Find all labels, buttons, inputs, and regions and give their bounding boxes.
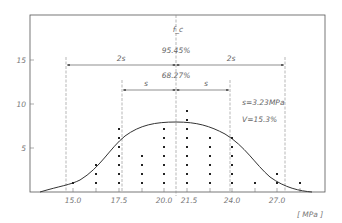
data-dot: [276, 182, 278, 184]
y-axis: 5 10 15: [16, 56, 34, 153]
data-dot: [231, 137, 233, 139]
y-axis-label: f_c: [173, 25, 184, 34]
data-dot: [186, 137, 188, 139]
x-tick-17-5: 17.5: [111, 196, 128, 205]
data-dot: [118, 164, 120, 166]
data-dot: [231, 155, 233, 157]
data-dot: [299, 182, 301, 184]
data-dot: [118, 146, 120, 148]
data-dot: [186, 146, 188, 148]
data-dot: [209, 155, 211, 157]
x-tick-15: 15.0: [65, 196, 82, 205]
data-dot: [72, 182, 74, 184]
data-dot: [163, 182, 165, 184]
y-tick-15: 15: [16, 56, 26, 65]
data-dot: [163, 146, 165, 148]
data-dot: [231, 164, 233, 166]
two-s-label-right: 2s: [227, 54, 236, 63]
data-dot: [186, 155, 188, 157]
data-dot: [186, 110, 188, 112]
data-dot: [186, 182, 188, 184]
data-dot: [186, 164, 188, 166]
x-tick-24: 24.0: [224, 196, 241, 205]
data-dot: [254, 182, 256, 184]
data-dot: [141, 164, 143, 166]
data-dot: [118, 128, 120, 130]
data-dot: [231, 182, 233, 184]
data-dot: [118, 173, 120, 175]
data-dot: [95, 173, 97, 175]
data-dot: [163, 128, 165, 130]
data-dot: [209, 137, 211, 139]
x-axis: 15.0 17.5 20.0 21.5 24.0 27.0 [ MPa ]: [65, 188, 324, 219]
data-dot: [95, 164, 97, 166]
data-dot: [209, 173, 211, 175]
data-dot: [163, 137, 165, 139]
pct-2s-label: 95.45%: [162, 46, 191, 55]
y-tick-10: 10: [16, 100, 26, 109]
data-dot: [276, 173, 278, 175]
data-dot: [118, 155, 120, 157]
data-dot: [231, 146, 233, 148]
y-tick-5: 5: [21, 144, 26, 153]
two-s-dimension: 2s 2s 95.45%: [67, 46, 284, 65]
data-dot: [231, 173, 233, 175]
s-label-left: s: [144, 79, 148, 88]
data-dot: [209, 182, 211, 184]
s-label-right: s: [204, 79, 208, 88]
data-dot: [118, 182, 120, 184]
x-tick-27: 27.0: [269, 196, 286, 205]
data-dot: [141, 173, 143, 175]
two-s-label-left: 2s: [117, 54, 126, 63]
data-dot: [141, 155, 143, 157]
std-text: s=3.23MPa: [242, 98, 285, 107]
data-dot: [186, 173, 188, 175]
data-dot: [95, 182, 97, 184]
data-dot: [186, 119, 188, 121]
data-dot: [141, 182, 143, 184]
cv-text: V=15.3%: [242, 115, 277, 124]
data-dot: [118, 137, 120, 139]
data-dot: [186, 128, 188, 130]
data-dot: [163, 155, 165, 157]
x-axis-unit: [ MPa ]: [297, 210, 323, 219]
data-dot: [209, 146, 211, 148]
data-dot: [163, 164, 165, 166]
x-tick-20: 20.0: [156, 196, 173, 205]
data-dot: [163, 173, 165, 175]
distribution-chart: 5 10 15 15.0 17.5 20.0 21.5 24.0 27.0 [ …: [0, 0, 342, 223]
pct-1s-label: 68.27%: [162, 71, 191, 80]
x-tick-21-5: 21.5: [181, 196, 198, 205]
data-dot: [209, 164, 211, 166]
